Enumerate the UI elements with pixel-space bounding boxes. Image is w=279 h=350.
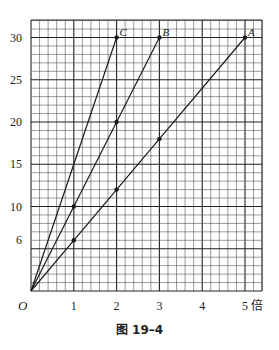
data-point xyxy=(243,35,247,39)
series-label-C: C xyxy=(120,26,128,38)
x-tick-label: 2 xyxy=(114,299,120,313)
data-point xyxy=(114,187,118,191)
x-tick-label: 1 xyxy=(71,299,77,313)
series-label-B: B xyxy=(162,26,169,38)
y-tick-label: 6 xyxy=(16,233,22,247)
x-tick-label: 3 xyxy=(156,299,162,313)
y-tick-label: 10 xyxy=(10,200,22,214)
figure-caption: 图 19–4 xyxy=(0,320,279,337)
series-label-A: A xyxy=(247,26,255,38)
line-chart: ABC6101520253012345O倍 xyxy=(0,0,279,350)
y-tick-label: 25 xyxy=(10,73,22,87)
origin-label: O xyxy=(18,298,28,313)
data-point xyxy=(72,204,76,208)
data-point xyxy=(72,238,76,242)
data-point xyxy=(157,137,161,141)
y-tick-label: 15 xyxy=(10,157,22,171)
data-point xyxy=(114,35,118,39)
x-tick-label: 4 xyxy=(199,299,205,313)
x-axis-unit-label: 倍 xyxy=(251,298,263,313)
x-tick-label: 5 xyxy=(242,299,248,313)
y-tick-label: 20 xyxy=(10,115,22,129)
y-tick-label: 30 xyxy=(10,31,22,45)
data-point xyxy=(157,35,161,39)
data-point xyxy=(114,120,118,124)
